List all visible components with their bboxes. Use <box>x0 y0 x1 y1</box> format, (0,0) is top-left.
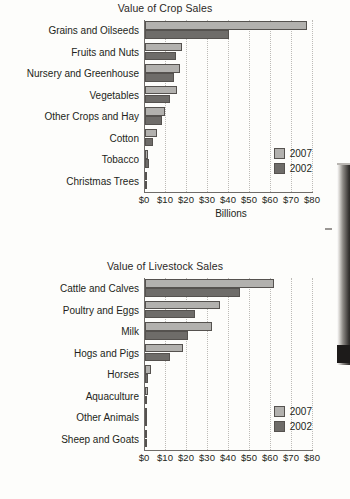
x-tick-label: $10 <box>157 194 173 205</box>
bar-2002 <box>145 417 147 425</box>
legend-swatch-icon <box>274 148 285 159</box>
bar-row: Horses <box>0 364 322 386</box>
bar-group <box>144 278 312 300</box>
x-tick-label: $10 <box>157 452 173 463</box>
bar-group <box>144 128 312 150</box>
bar-2002 <box>145 353 170 361</box>
legend-item-2002: 2002 <box>274 421 312 432</box>
x-tick-label: $20 <box>178 194 194 205</box>
scanned-page: Value of Crop Sales Grains and OilseedsF… <box>0 0 350 499</box>
bar-row: Other Crops and Hay <box>0 106 322 128</box>
chart-livestock-sales: Value of Livestock Sales Cattle and Calv… <box>0 260 322 465</box>
scan-edge-artifact-dark <box>337 345 350 363</box>
category-label: Sheep and Goats <box>0 434 144 445</box>
bar-2002 <box>145 95 170 103</box>
category-label: Cotton <box>0 133 144 144</box>
x-tick-label: $30 <box>199 194 215 205</box>
bar-2007 <box>145 365 151 373</box>
bar-row: Fruits and Nuts <box>0 42 322 64</box>
x-tick-label: $40 <box>220 452 236 463</box>
scan-speck-artifact <box>325 228 332 230</box>
legend-swatch-icon <box>274 421 285 432</box>
bar-2007 <box>145 172 147 180</box>
x-axis-caption-crop-sales: Billions <box>0 208 322 219</box>
legend-item-2007: 2007 <box>274 406 312 417</box>
bar-row: Milk <box>0 321 322 343</box>
bar-2007 <box>145 86 177 94</box>
bar-2002 <box>145 138 153 146</box>
bar-2007 <box>145 408 147 416</box>
bar-2002 <box>145 396 147 404</box>
bar-2007 <box>145 43 182 51</box>
x-tick-label: $50 <box>241 194 257 205</box>
category-label: Poultry and Eggs <box>0 305 144 316</box>
bar-row: Cotton <box>0 128 322 150</box>
bar-group <box>144 321 312 343</box>
bar-2002 <box>145 116 162 124</box>
bar-2007 <box>145 21 307 29</box>
bar-group <box>144 386 312 408</box>
chart-title-crop-sales: Value of Crop Sales <box>0 2 322 14</box>
legend-label: 2002 <box>290 421 312 432</box>
bar-group <box>144 364 312 386</box>
x-tick-label: $70 <box>283 452 299 463</box>
x-tick-label: $40 <box>220 194 236 205</box>
x-tick-label: $0 <box>139 194 150 205</box>
bar-2007 <box>145 387 148 395</box>
scan-edge-artifact <box>337 163 350 365</box>
bar-2007 <box>145 322 212 330</box>
bar-group <box>144 300 312 322</box>
bar-2002 <box>145 310 195 318</box>
category-label: Aquaculture <box>0 391 144 402</box>
bar-2002 <box>145 73 174 81</box>
bar-2007 <box>145 430 147 438</box>
bar-group <box>144 106 312 128</box>
x-axis-ticks-livestock-sales: $0$10$20$30$40$50$60$70$80 <box>144 450 312 465</box>
bar-group <box>144 63 312 85</box>
bar-2002 <box>145 439 147 447</box>
legend-label: 2002 <box>290 163 312 174</box>
category-label: Hogs and Pigs <box>0 348 144 359</box>
bar-row: Hogs and Pigs <box>0 343 322 365</box>
bar-group <box>144 20 312 42</box>
legend-label: 2007 <box>290 406 312 417</box>
bar-row: Vegetables <box>0 85 322 107</box>
x-tick-label: $80 <box>304 452 320 463</box>
legend-livestock-sales: 20072002 <box>274 406 312 432</box>
category-label: Nursery and Greenhouse <box>0 68 144 79</box>
category-label: Christmas Trees <box>0 176 144 187</box>
category-label: Vegetables <box>0 90 144 101</box>
category-label: Milk <box>0 326 144 337</box>
x-axis-ticks-crop-sales: $0$10$20$30$40$50$60$70$80 <box>144 192 312 207</box>
bar-2002 <box>145 331 188 339</box>
bar-2002 <box>145 374 148 382</box>
bar-group <box>144 343 312 365</box>
chart-title-livestock-sales: Value of Livestock Sales <box>0 260 322 272</box>
x-tick-label: $50 <box>241 452 257 463</box>
legend-crop-sales: 20072002 <box>274 148 312 174</box>
bar-2002 <box>145 52 176 60</box>
legend-item-2002: 2002 <box>274 163 312 174</box>
category-label: Horses <box>0 369 144 380</box>
bar-2002 <box>145 288 240 296</box>
category-label: Tobacco <box>0 154 144 165</box>
plot-area-crop-sales: Grains and OilseedsFruits and NutsNurser… <box>0 20 322 192</box>
bar-2007 <box>145 279 274 287</box>
bar-group <box>144 85 312 107</box>
bar-2007 <box>145 129 157 137</box>
bar-2002 <box>145 181 147 189</box>
bar-2007 <box>145 301 220 309</box>
legend-swatch-icon <box>274 163 285 174</box>
bar-row: Nursery and Greenhouse <box>0 63 322 85</box>
bar-row: Poultry and Eggs <box>0 300 322 322</box>
chart-crop-sales: Value of Crop Sales Grains and OilseedsF… <box>0 2 322 219</box>
category-label: Grains and Oilseeds <box>0 25 144 36</box>
legend-item-2007: 2007 <box>274 148 312 159</box>
category-label: Fruits and Nuts <box>0 47 144 58</box>
bar-row: Aquaculture <box>0 386 322 408</box>
category-label: Other Crops and Hay <box>0 111 144 122</box>
legend-swatch-icon <box>274 406 285 417</box>
bar-2002 <box>145 30 229 38</box>
bar-2007 <box>145 150 148 158</box>
x-tick-label: $80 <box>304 194 320 205</box>
